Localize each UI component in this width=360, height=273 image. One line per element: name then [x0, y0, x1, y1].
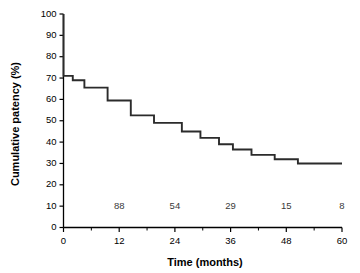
x-axis-title: Time (months)	[167, 256, 243, 268]
svg-text:20: 20	[46, 178, 57, 189]
svg-text:80: 80	[46, 50, 57, 61]
svg-text:30: 30	[46, 157, 57, 168]
svg-text:60: 60	[46, 93, 57, 104]
svg-text:88: 88	[114, 200, 125, 211]
kaplan-meier-figure: Cumulative patency (%) Time (months) 010…	[0, 0, 360, 273]
svg-text:0: 0	[61, 235, 66, 246]
svg-text:90: 90	[46, 29, 57, 40]
svg-text:0: 0	[51, 221, 56, 232]
svg-text:54: 54	[170, 200, 181, 211]
svg-text:12: 12	[114, 235, 125, 246]
svg-text:100: 100	[41, 8, 57, 19]
svg-text:29: 29	[225, 200, 236, 211]
svg-text:40: 40	[46, 136, 57, 147]
svg-text:50: 50	[46, 114, 57, 125]
svg-text:8: 8	[339, 200, 344, 211]
svg-text:48: 48	[281, 235, 292, 246]
y-axis-title: Cumulative patency (%)	[9, 62, 21, 186]
svg-text:10: 10	[46, 200, 57, 211]
svg-text:36: 36	[225, 235, 236, 246]
svg-text:15: 15	[281, 200, 292, 211]
svg-text:70: 70	[46, 72, 57, 83]
cumulative-patency-chart: Cumulative patency (%) Time (months) 010…	[0, 0, 360, 273]
svg-text:24: 24	[170, 235, 181, 246]
svg-text:60: 60	[337, 235, 348, 246]
